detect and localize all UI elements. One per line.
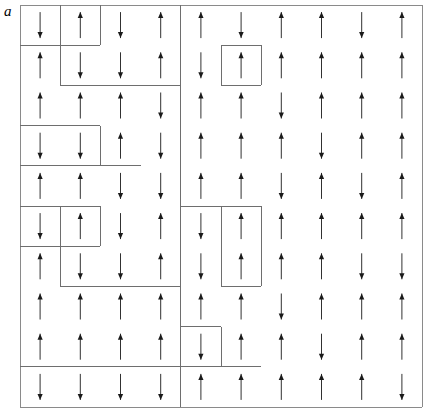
arrow-head-up [279, 374, 284, 380]
spin-arrow-down-r7c3 [118, 253, 123, 279]
arrow-head-up [38, 253, 43, 259]
arrow-head-up [279, 213, 284, 219]
arrow-head-up [359, 334, 364, 340]
arrow-head-down [239, 32, 244, 38]
arrow-head-up [239, 253, 244, 259]
spin-arrow-down-r2c5 [198, 52, 203, 78]
arrow-head-up [319, 93, 324, 99]
spin-arrow-down-r1c9 [359, 12, 364, 38]
spin-arrow-up-r8c10 [399, 294, 404, 320]
arrow-head-up [319, 213, 324, 219]
spin-arrow-up-r4c3 [118, 133, 123, 159]
arrow-head-up [239, 374, 244, 380]
arrow-head-down [118, 32, 123, 38]
arrow-head-up [198, 12, 203, 18]
arrow-head-up [38, 334, 43, 340]
spin-arrow-up-r8c4 [158, 294, 163, 320]
spin-arrow-up-r1c10 [399, 12, 404, 38]
arrow-head-up [118, 93, 123, 99]
spin-arrow-up-r10c9 [359, 374, 364, 400]
arrow-head-down [399, 273, 404, 279]
spin-arrow-down-r1c3 [118, 12, 123, 38]
spin-arrow-up-r2c4 [158, 52, 163, 78]
arrow-head-down [118, 193, 123, 199]
spin-arrow-up-r7c8 [319, 253, 324, 279]
spin-arrow-down-r6c3 [118, 213, 123, 239]
arrow-head-up [319, 374, 324, 380]
arrow-head-up [198, 133, 203, 139]
spin-lattice-figure: a [0, 0, 428, 419]
spin-arrow-down-r5c7 [279, 173, 284, 199]
spin-arrow-up-r3c8 [319, 93, 324, 119]
arrow-head-up [399, 334, 404, 340]
spin-arrow-up-r1c8 [319, 12, 324, 38]
spin-arrow-down-r9c8 [319, 334, 324, 360]
spin-arrow-up-r5c1 [38, 173, 43, 199]
arrow-head-down [359, 273, 364, 279]
arrow-head-up [359, 374, 364, 380]
arrow-head-up [158, 334, 163, 340]
spin-arrow-up-r6c2 [78, 213, 83, 239]
spin-arrow-up-r6c6 [239, 213, 244, 239]
arrow-head-down [158, 193, 163, 199]
spin-arrow-down-r10c4 [158, 374, 163, 400]
arrow-head-down [38, 394, 43, 400]
spin-arrow-down-r6c1 [38, 213, 43, 239]
spin-arrow-up-r5c5 [198, 173, 203, 199]
arrow-head-up [359, 93, 364, 99]
arrow-head-up [399, 294, 404, 300]
spin-arrow-up-r4c5 [198, 133, 203, 159]
spin-arrow-up-r2c1 [38, 52, 43, 78]
arrow-head-up [38, 294, 43, 300]
arrow-head-up [399, 133, 404, 139]
spin-arrow-down-r2c2 [78, 52, 83, 78]
spin-arrow-down-r6c5 [198, 213, 203, 239]
spin-arrow-up-r6c8 [319, 213, 324, 239]
spin-arrow-down-r10c1 [38, 374, 43, 400]
spin-arrow-up-r9c6 [239, 334, 244, 360]
arrow-head-down [158, 394, 163, 400]
spin-arrow-up-r6c10 [399, 213, 404, 239]
arrow-head-down [198, 354, 203, 360]
arrow-head-up [359, 52, 364, 58]
arrow-head-up [399, 52, 404, 58]
spin-arrow-up-r9c3 [118, 334, 123, 360]
spin-arrow-up-r7c4 [158, 253, 163, 279]
spin-arrow-up-r9c2 [78, 334, 83, 360]
arrow-head-down [118, 233, 123, 239]
arrow-head-down [118, 273, 123, 279]
arrow-head-up [359, 213, 364, 219]
spin-arrow-up-r9c4 [158, 334, 163, 360]
spin-arrow-down-r7c10 [399, 253, 404, 279]
arrow-head-down [359, 32, 364, 38]
spin-arrow-up-r1c4 [158, 12, 163, 38]
spin-arrow-up-r5c6 [239, 173, 244, 199]
spin-arrow-up-r8c2 [78, 294, 83, 320]
arrow-head-down [198, 233, 203, 239]
arrow-head-up [118, 133, 123, 139]
spin-arrow-down-r5c3 [118, 173, 123, 199]
spin-arrow-up-r4c10 [399, 133, 404, 159]
spin-arrow-down-r8c7 [279, 294, 284, 320]
spin-arrow-up-r9c7 [279, 334, 284, 360]
arrow-head-down [359, 193, 364, 199]
arrow-head-down [78, 273, 83, 279]
spin-arrow-up-r10c6 [239, 374, 244, 400]
spin-arrow-up-r2c10 [399, 52, 404, 78]
spin-arrow-up-r3c2 [78, 93, 83, 119]
arrow-head-down [78, 153, 83, 159]
spin-arrow-up-r8c3 [118, 294, 123, 320]
lattice-canvas [0, 0, 428, 419]
arrow-head-up [399, 213, 404, 219]
spin-arrow-up-r10c7 [279, 374, 284, 400]
spin-arrow-up-r5c8 [319, 173, 324, 199]
arrow-head-up [239, 334, 244, 340]
spin-arrow-up-r6c9 [359, 213, 364, 239]
arrow-head-down [279, 113, 284, 119]
spin-arrow-up-r8c9 [359, 294, 364, 320]
spin-arrow-down-r3c4 [158, 93, 163, 119]
arrow-head-up [319, 52, 324, 58]
arrow-head-up [279, 253, 284, 259]
spin-arrow-down-r7c2 [78, 253, 83, 279]
arrow-head-up [319, 253, 324, 259]
